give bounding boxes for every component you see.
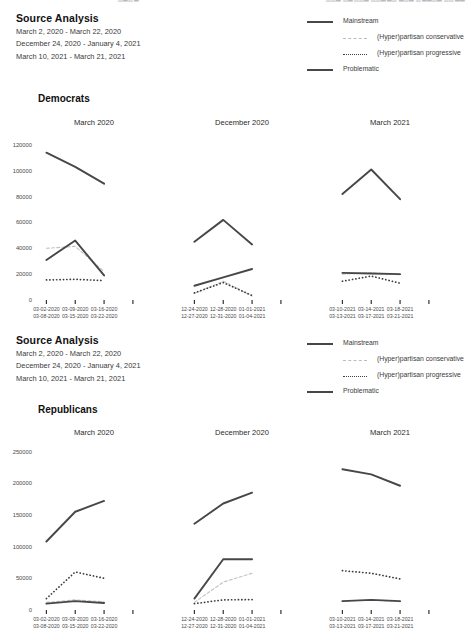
panel-title: March 2021 <box>334 428 446 437</box>
series-line <box>342 276 400 283</box>
legend-row: Problematic <box>307 62 463 78</box>
series-line <box>46 572 104 599</box>
legend-row: Mainstream <box>307 14 463 30</box>
y-tick-label: 100000 <box>13 168 32 174</box>
x-tick-label-line: 01-01-2021 <box>230 616 274 623</box>
series-line <box>342 169 400 199</box>
section-democrats: Source Analysis March 2, 2020 - March 22… <box>0 12 469 330</box>
x-tick-label: 03-18-202103-21-2021 <box>378 616 422 630</box>
y-tick-label: 20000 <box>16 271 32 277</box>
legend-republicans: Mainstream(Hyper)partisan conservative(H… <box>307 336 463 400</box>
x-tick-label-line: 03-21-2021 <box>378 313 422 320</box>
x-tick-label: 01-01-202101-04-2021 <box>230 306 274 320</box>
date-range-item: March 10, 2021 - March 21, 2021 <box>16 373 141 385</box>
x-tick-label-line: 03-22-2020 <box>82 313 126 320</box>
legend-line-dash-icon <box>343 360 367 361</box>
legend-row: (Hyper)partisan progressive <box>307 46 463 62</box>
panel-title: December 2020 <box>186 428 298 437</box>
legend-label: Problematic <box>343 65 379 72</box>
series-line <box>194 600 252 604</box>
y-tick-label: 250000 <box>13 449 32 455</box>
legend-line-dot-icon <box>343 376 367 377</box>
plot-area <box>38 442 150 620</box>
legend-line-solid-icon <box>307 21 333 23</box>
x-tick-label-line: 01-04-2021 <box>230 623 274 630</box>
legend-label: Mainstream <box>343 339 379 346</box>
series-line <box>342 273 400 274</box>
y-tick-label: 60000 <box>16 219 32 225</box>
legend-democrats: Mainstream(Hyper)partisan conservative(H… <box>307 14 463 78</box>
legend-line-dot-icon <box>343 54 367 55</box>
y-axis: 050000100000150000200000250000 <box>0 442 32 610</box>
date-range-item: March 10, 2021 - March 21, 2021 <box>16 51 141 63</box>
x-tick-label-line: 03-21-2021 <box>378 623 422 630</box>
plot-area <box>334 132 446 310</box>
legend-line-solid-icon <box>307 343 333 345</box>
panel-title: March 2021 <box>334 118 446 127</box>
panel-title: March 2020 <box>38 118 150 127</box>
x-tick-label-line: 03-18-2021 <box>378 306 422 313</box>
y-tick-label: 80000 <box>16 194 32 200</box>
series-line <box>46 153 104 184</box>
legend-line-solid-icon <box>307 69 333 71</box>
series-line <box>342 600 400 601</box>
series-line <box>46 241 104 276</box>
series-line <box>46 246 104 271</box>
panel-title: December 2020 <box>186 118 298 127</box>
x-tick-label-line: 03-16-2020 <box>82 616 126 623</box>
y-tick-label: 120000 <box>13 142 32 148</box>
x-tick-label: 03-18-202103-21-2021 <box>378 306 422 320</box>
panel-title: March 2020 <box>38 428 150 437</box>
series-line <box>46 501 104 542</box>
legend-label: (Hyper)partisan conservative <box>377 33 464 40</box>
plot-area <box>186 132 298 310</box>
source-analysis-title-democrats: Source Analysis <box>16 12 99 24</box>
x-tick-label-line: 01-04-2021 <box>230 313 274 320</box>
legend-label: (Hyper)partisan progressive <box>377 371 461 378</box>
date-range-list-republicans: March 2, 2020 - March 22, 2020 December … <box>16 348 141 385</box>
date-range-item: December 24, 2020 - January 4, 2021 <box>16 360 141 372</box>
y-tick-label: 40000 <box>16 245 32 251</box>
x-tick-label-line: 03-18-2021 <box>378 616 422 623</box>
legend-row: (Hyper)partisan conservative <box>307 352 463 368</box>
top-fragment-right: ▁▁▃ ▁▂▁▁▃ ▁▁▂▃▁ ▃▁▂ ▁▂▃▁▂ ▁▁▃▂ <box>326 0 465 1</box>
series-line <box>194 493 252 524</box>
y-tick-label: 200000 <box>13 480 32 486</box>
series-line <box>46 279 104 280</box>
plot-area <box>334 442 446 620</box>
x-tick-label: 03-16-202003-22-2020 <box>82 306 126 320</box>
y-tick-label: 150000 <box>13 512 32 518</box>
plot-area <box>186 442 298 620</box>
section-republicans: Source Analysis March 2, 2020 - March 22… <box>0 334 469 642</box>
legend-label: Mainstream <box>343 17 379 24</box>
series-line <box>342 469 400 485</box>
x-tick-label: 01-01-202101-04-2021 <box>230 616 274 630</box>
series-line <box>194 283 252 296</box>
date-range-item: December 24, 2020 - January 4, 2021 <box>16 38 141 50</box>
group-title-democrats: Democrats <box>38 93 90 104</box>
legend-line-dash-icon <box>343 38 367 39</box>
series-line <box>194 559 252 598</box>
date-range-list-democrats: March 2, 2020 - March 22, 2020 December … <box>16 26 141 63</box>
top-fragment-left: ▁▃▁▂ <box>118 0 139 1</box>
group-title-republicans: Republicans <box>38 404 97 415</box>
legend-label: Problematic <box>343 387 379 394</box>
plot-area <box>38 132 150 310</box>
y-tick-label: 100000 <box>13 544 32 550</box>
x-tick-label-line: 01-01-2021 <box>230 306 274 313</box>
legend-line-solid-icon <box>307 391 333 393</box>
x-tick-label: 03-16-202003-22-2020 <box>82 616 126 630</box>
series-line <box>342 571 400 579</box>
legend-row: (Hyper)partisan progressive <box>307 368 463 384</box>
series-line <box>194 220 252 245</box>
date-range-item: March 2, 2020 - March 22, 2020 <box>16 26 141 38</box>
legend-row: Mainstream <box>307 336 463 352</box>
y-tick-label: 0 <box>29 607 32 613</box>
figure-page: ▁▃▁▂ ▁▁▃ ▁▂▁▁▃ ▁▁▂▃▁ ▃▁▂ ▁▂▃▁▂ ▁▁▃▂ Sour… <box>0 0 469 642</box>
legend-label: (Hyper)partisan progressive <box>377 49 461 56</box>
top-cropped-text-row: ▁▃▁▂ ▁▁▃ ▁▂▁▁▃ ▁▁▂▃▁ ▃▁▂ ▁▂▃▁▂ ▁▁▃▂ <box>0 0 469 9</box>
y-tick-label: 50000 <box>16 575 32 581</box>
legend-row: (Hyper)partisan conservative <box>307 30 463 46</box>
x-tick-label-line: 03-22-2020 <box>82 623 126 630</box>
y-axis: 020000400006000080000100000120000 <box>0 132 32 300</box>
